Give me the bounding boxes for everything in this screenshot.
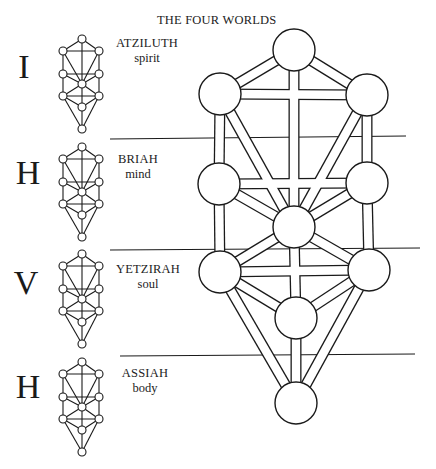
sephirah-hod [59,200,67,208]
sephirah-chokmah [95,47,103,55]
sephirah-kether [78,143,86,151]
sephirah-tiphareth [273,206,315,248]
sephirah-hod [59,415,67,423]
sephirah-yesod [78,426,86,434]
sephirah-chesed [95,393,103,401]
sephirah-chokmah [95,370,103,378]
sephirah-yesod [78,318,86,326]
sephirah-malkuth [78,448,86,456]
sephirah-tiphareth [78,188,86,196]
sephirah-geburah [59,178,67,186]
sephirah-chesed [95,70,103,78]
sephirah-chokmah [95,155,103,163]
sephirah-kether [78,35,86,43]
world-aspect: body [114,381,176,396]
world-name: BRIAH [108,152,168,167]
sephirah-chesed [95,285,103,293]
sephirah-netzach [95,415,103,423]
sephirah-binah [199,73,241,115]
sephirah-malkuth [78,340,86,348]
sephirah-chokmah [95,262,103,270]
small-tree-atziluth [59,35,103,133]
sephirah-tiphareth [78,403,86,411]
sephirah-malkuth [275,382,317,424]
sephirah-kether [78,250,86,258]
sephirah-netzach [95,200,103,208]
sephirah-binah [59,262,67,270]
sephirah-geburah [198,163,240,205]
sephirah-netzach [95,307,103,315]
sephirah-malkuth [78,125,86,133]
sephirah-chokmah [346,74,388,116]
sephirah-tiphareth [78,80,86,88]
world-name: YETZIRAH [108,262,188,277]
sephirah-kether [273,29,315,71]
world-label-assiah: ASSIAH body [114,366,176,396]
sephirah-tiphareth [78,295,86,303]
world-letter-heh-final: H [8,370,48,404]
sephirah-netzach [348,249,390,291]
small-tree-briah [59,143,103,241]
path-channel-inner [220,94,367,95]
sephirah-malkuth [78,233,86,241]
world-name: ASSIAH [114,366,176,381]
world-letter-vav: V [6,266,46,300]
sephirah-geburah [59,285,67,293]
four-worlds-diagram [0,0,436,469]
world-aspect: mind [108,167,168,182]
world-aspect: spirit [108,51,186,66]
sephirah-binah [59,47,67,55]
sephirah-chesed [346,162,388,204]
sephirah-geburah [59,393,67,401]
small-tree-assiah [59,358,103,456]
sephirah-binah [59,370,67,378]
sephirah-netzach [95,92,103,100]
sephirah-hod [199,251,241,293]
path-channel-inner [219,183,367,184]
large-tree-of-life [198,29,390,424]
sephirah-yesod [78,103,86,111]
small-tree-yetzirah [59,250,103,348]
sephirah-hod [59,307,67,315]
diagram-title: THE FOUR WORLDS [157,13,276,28]
sephirah-yesod [275,297,317,339]
world-aspect: soul [108,277,188,292]
world-letter-heh: H [8,156,48,190]
world-label-briah: BRIAH mind [108,152,168,182]
world-label-atziluth: ATZILUTH spirit [108,36,186,66]
sephirah-kether [78,358,86,366]
world-name: ATZILUTH [108,36,186,51]
sephirah-yesod [78,211,86,219]
path-channel-inner [220,270,369,272]
small-trees-of-life [59,35,103,456]
sephirah-hod [59,92,67,100]
sephirah-chesed [95,178,103,186]
world-letter-yod: I [4,50,44,84]
sephirah-binah [59,155,67,163]
world-label-yetzirah: YETZIRAH soul [108,262,188,292]
sephirah-geburah [59,70,67,78]
